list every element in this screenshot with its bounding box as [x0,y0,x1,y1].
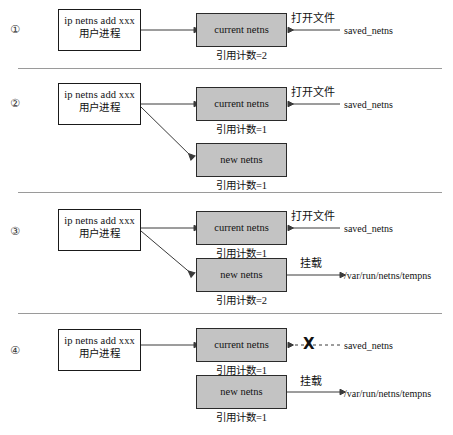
process-box-4: ip netns add xxx 用户进程 [58,329,141,371]
step-number-4: ④ [10,345,20,356]
step-number-2: ② [10,98,20,109]
process-box-3: ip netns add xxx 用户进程 [58,209,141,251]
mount-label-4: 挂载 [300,375,322,387]
open-file-label-3: 打开文件 [291,210,335,222]
saved-netns-label-2: saved_netns [344,99,393,111]
new-netns-box-4: new netns [196,375,287,409]
saved-netns-label-1: saved_netns [344,25,393,37]
saved-netns-label-3: saved_netns [344,223,393,235]
current-netns-box-4: current netns [196,328,287,362]
process-box-line2: 用户进程 [59,347,140,360]
broken-link-x-icon: X [303,337,315,352]
step-number-3: ③ [10,226,20,237]
process-box-2: ip netns add xxx 用户进程 [58,83,141,125]
process-box-line2: 用户进程 [59,101,140,114]
open-file-label-2: 打开文件 [291,86,335,98]
process-box-1: ip netns add xxx 用户进程 [58,9,141,51]
process-box-line2: 用户进程 [59,27,140,40]
new-netns-box-3: new netns [196,258,287,292]
mount-label-3: 挂载 [300,257,322,269]
saved-netns-label-4: saved_netns [344,340,393,352]
new-netns-refcount-3: 引用计数=2 [196,295,287,307]
tempns-path-label-3: /var/run/netns/tempns [344,270,431,282]
step-section-3: ③ ip netns add xxx 用户进程 current netns 引用… [0,192,453,313]
process-box-line1: ip netns add xxx [59,88,140,101]
current-netns-refcount-1: 引用计数=2 [196,50,287,62]
process-box-line1: ip netns add xxx [59,14,140,27]
step-section-4: ④ ip netns add xxx 用户进程 current netns 引用… [0,313,453,435]
current-netns-refcount-2: 引用计数=1 [196,124,287,136]
new-netns-refcount-4: 引用计数=1 [196,412,287,424]
netns-lifecycle-diagram: ① ip netns add xxx 用户进程 current netns 引用… [0,0,453,435]
process-box-line2: 用户进程 [59,227,140,240]
step-number-1: ① [10,24,20,35]
new-netns-box-2: new netns [196,143,287,177]
step-section-2: ② ip netns add xxx 用户进程 current netns 引用… [0,68,453,192]
tempns-path-label-4: /var/run/netns/tempns [344,388,431,400]
current-netns-box-3: current netns [196,211,287,245]
step-section-1: ① ip netns add xxx 用户进程 current netns 引用… [0,0,453,68]
current-netns-box-1: current netns [196,13,287,47]
new-netns-refcount-2: 引用计数=1 [196,180,287,192]
process-box-line1: ip netns add xxx [59,334,140,347]
current-netns-box-2: current netns [196,87,287,121]
open-file-label-1: 打开文件 [291,12,335,24]
process-box-line1: ip netns add xxx [59,214,140,227]
